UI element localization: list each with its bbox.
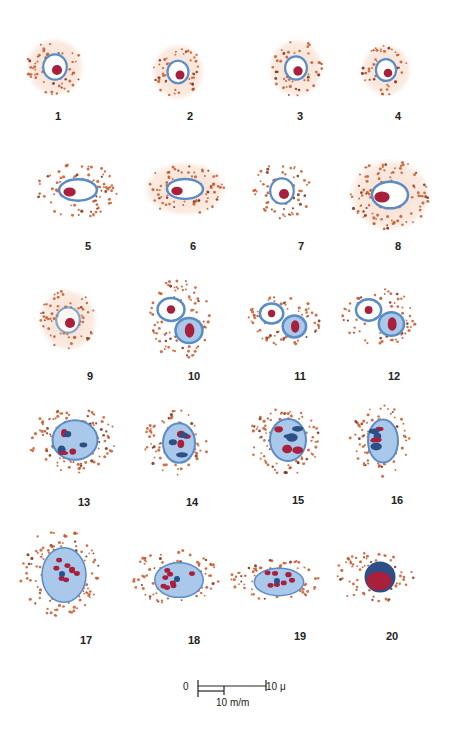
cell-6 xyxy=(143,161,227,217)
cell-number-label: 8 xyxy=(395,240,401,252)
cell-16 xyxy=(349,404,411,477)
cell-number-label: 13 xyxy=(78,496,90,508)
cell-11 xyxy=(248,296,321,345)
scale-mm-label: 10 m/m xyxy=(216,697,249,708)
cell-3 xyxy=(268,38,324,98)
cell-14 xyxy=(144,410,208,476)
cell-17 xyxy=(19,531,99,617)
cell-number-label: 2 xyxy=(187,110,193,122)
scale-zero-label: 0 xyxy=(183,681,189,692)
cell-1 xyxy=(25,37,85,97)
cell-number-label: 20 xyxy=(386,630,398,642)
cell-number-label: 18 xyxy=(188,634,200,646)
scale-micron-label: 10 μ xyxy=(266,681,286,692)
cell-4 xyxy=(360,43,412,97)
cell-10 xyxy=(149,279,211,358)
cell-number-label: 1 xyxy=(55,110,61,122)
cell-plate-canvas xyxy=(0,0,452,742)
cell-8 xyxy=(348,158,432,232)
cell-number-label: 5 xyxy=(85,240,91,252)
cell-18 xyxy=(132,549,219,603)
cell-12 xyxy=(341,288,416,344)
cell-number-label: 15 xyxy=(292,494,304,506)
cell-number-label: 19 xyxy=(294,630,306,642)
cell-15 xyxy=(251,408,319,474)
cell-number-label: 12 xyxy=(388,370,400,382)
cell-number-label: 17 xyxy=(80,634,92,646)
cell-number-label: 10 xyxy=(188,370,200,382)
cell-number-label: 7 xyxy=(298,240,304,252)
cell-5 xyxy=(37,164,117,218)
cell-number-label: 6 xyxy=(190,240,196,252)
cell-20 xyxy=(337,552,415,603)
cell-19 xyxy=(230,559,319,600)
cell-2 xyxy=(151,43,205,101)
cell-number-label: 14 xyxy=(186,496,198,508)
cell-9 xyxy=(38,288,98,352)
cell-number-label: 16 xyxy=(391,494,403,506)
cell-13 xyxy=(30,410,115,474)
cell-number-label: 9 xyxy=(87,370,93,382)
cell-number-label: 11 xyxy=(294,370,306,382)
cell-number-label: 3 xyxy=(297,110,303,122)
cell-number-label: 4 xyxy=(395,110,401,122)
cell-7 xyxy=(252,165,310,219)
scale-bar-lines xyxy=(198,680,266,697)
